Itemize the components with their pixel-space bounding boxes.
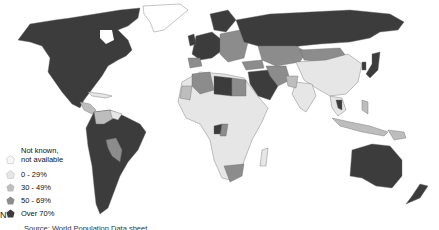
region-philippines xyxy=(362,100,368,114)
region-turkey xyxy=(242,60,264,70)
legend-label: 50 - 69% xyxy=(21,196,51,205)
legend-label: 0 - 29% xyxy=(21,170,47,179)
legend-item-over-70: Over 70% xyxy=(6,207,63,220)
pentagon-icon xyxy=(6,209,15,218)
pentagon-icon xyxy=(6,196,15,205)
region-libya xyxy=(214,76,232,96)
region-png xyxy=(388,130,406,140)
region-central-america xyxy=(80,102,96,114)
region-new-zealand xyxy=(406,184,428,204)
region-indonesia xyxy=(332,118,388,136)
map-legend: Not known,not available 0 - 29% 30 - 49%… xyxy=(6,146,63,220)
legend-item-not-known: Not known,not available xyxy=(6,146,63,166)
region-australia xyxy=(350,144,402,188)
region-pakistan xyxy=(286,76,298,88)
region-iberia xyxy=(188,58,202,68)
region-russia xyxy=(236,10,404,50)
region-korea xyxy=(362,62,366,70)
pentagon-icon xyxy=(6,155,15,164)
region-caribbean xyxy=(88,92,112,98)
region-north-america xyxy=(18,8,140,108)
region-uk xyxy=(188,34,196,46)
pentagon-icon xyxy=(6,183,15,192)
world-map xyxy=(0,0,439,230)
region-europe-west xyxy=(192,32,222,60)
legend-label: Over 70% xyxy=(21,209,54,218)
region-egypt xyxy=(232,78,246,96)
legend-item-50-69: 50 - 69% xyxy=(6,194,63,207)
legend-label: Not known,not available xyxy=(21,146,63,164)
region-greenland xyxy=(143,4,188,32)
legend-label: 30 - 49% xyxy=(21,183,51,192)
legend-item-30-49: 30 - 49% xyxy=(6,181,63,194)
region-scandinavia xyxy=(210,10,236,32)
north-arrow-icon: N xyxy=(0,210,7,220)
source-caption: Source: World Population Data sheet xyxy=(24,224,147,230)
region-western-sahara xyxy=(180,86,192,100)
pentagon-icon xyxy=(6,170,15,179)
region-madagascar xyxy=(260,148,268,166)
region-south-america xyxy=(86,110,146,214)
legend-item-0-29: 0 - 29% xyxy=(6,168,63,181)
region-japan xyxy=(366,52,380,78)
